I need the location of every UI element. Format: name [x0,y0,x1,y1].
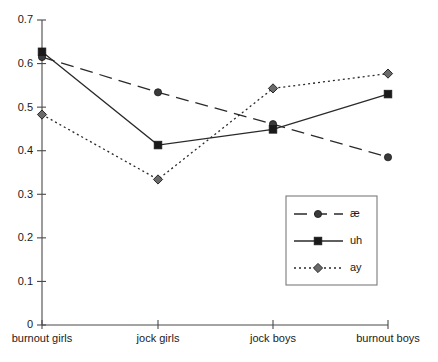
y-tick-label: 0.4 [18,144,33,156]
data-point-marker-square [384,90,392,98]
data-point-marker-circle [314,210,321,217]
y-tick-label: 0.3 [18,188,33,200]
legend-item-ae[interactable]: æ [294,207,360,219]
data-point-marker-circle [384,154,391,161]
legend-label: æ [350,207,360,219]
data-point-marker-diamond [37,110,46,119]
x-tick-label: jock girls [136,332,180,344]
legend-item-uh[interactable]: uh [294,234,362,246]
y-tick-label: 0.6 [18,57,33,69]
chart-legend: æuhay [286,196,377,285]
x-tick-label: jock boys [249,332,296,344]
data-point-marker-diamond [153,175,162,184]
data-point-marker-circle [154,89,161,96]
chart-figure: 00.10.20.30.40.50.60.7 burnout girlsjock… [0,0,438,362]
series-ae [38,53,391,160]
data-point-marker-diamond [383,69,392,78]
y-tick-label: 0.2 [18,231,33,243]
series-line [42,57,388,157]
series-line [42,52,388,145]
y-tick-label: 0 [27,318,33,330]
line-chart-svg: 00.10.20.30.40.50.60.7 burnout girlsjock… [0,0,438,362]
legend-label: uh [350,234,362,246]
data-point-marker-square [154,141,162,149]
data-point-marker-diamond [313,263,322,272]
y-tick-label: 0.1 [18,275,33,287]
legend-item-ay[interactable]: ay [294,261,362,273]
data-point-marker-square [269,126,277,134]
x-tick-label: burnout boys [356,332,420,344]
series-ay [37,69,392,184]
series-line [42,74,388,180]
x-tick-label: burnout girls [12,332,73,344]
y-tick-label: 0.5 [18,101,33,113]
legend-label: ay [350,261,362,273]
data-point-marker-square [314,237,322,245]
x-axis: burnout girlsjock girlsjock boysburnout … [12,320,421,344]
data-series-group [37,48,392,184]
data-point-marker-square [38,48,46,56]
y-tick-label: 0.7 [18,13,33,25]
